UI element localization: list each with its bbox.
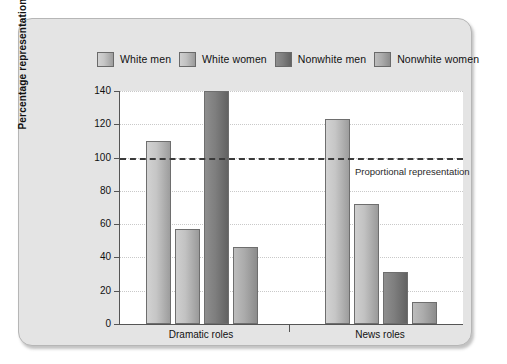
gridline-120	[120, 124, 463, 125]
proportional-representation-label: Proportional representation	[355, 166, 470, 177]
legend-item-white-men: White men	[97, 52, 171, 67]
legend-swatch-white-men	[97, 52, 114, 67]
gridline-20	[120, 291, 463, 292]
plot-area: Proportional representation	[119, 91, 463, 324]
y-tick-label-60: 60	[77, 218, 111, 229]
gridline-80	[120, 191, 463, 192]
bar-nonwhite-men-news-roles	[383, 272, 408, 324]
gridline-40	[120, 257, 463, 258]
bar-white-women-news-roles	[354, 204, 379, 324]
y-tick-label-40: 40	[77, 251, 111, 262]
x-axis-label-news-roles: News roles	[330, 329, 430, 340]
chart-legend: White men White women Nonwhite men Nonwh…	[97, 49, 467, 69]
bar-white-men-news-roles	[325, 119, 350, 324]
legend-label-white-men: White men	[120, 53, 171, 65]
x-axis-label-dramatic-roles: Dramatic roles	[151, 329, 251, 340]
legend-item-white-women: White women	[179, 52, 267, 67]
y-tick-label-0: 0	[77, 318, 111, 329]
y-tick-label-20: 20	[77, 285, 111, 296]
bar-nonwhite-women-news-roles	[412, 302, 437, 324]
legend-label-white-women: White women	[202, 53, 267, 65]
legend-label-nonwhite-women: Nonwhite women	[397, 53, 479, 65]
y-tick-label-100: 100	[77, 152, 111, 163]
proportional-representation-line	[120, 158, 463, 160]
x-axis-group-separator	[289, 325, 290, 332]
bar-nonwhite-women-dramatic-roles	[233, 247, 258, 324]
bar-white-women-dramatic-roles	[175, 229, 200, 324]
legend-swatch-nonwhite-women	[374, 52, 391, 67]
legend-swatch-nonwhite-men	[275, 52, 292, 67]
legend-item-nonwhite-women: Nonwhite women	[374, 52, 479, 67]
y-axis-title: Percentage representation	[17, 0, 28, 139]
figure-panel: White men White women Nonwhite men Nonwh…	[18, 18, 472, 346]
legend-label-nonwhite-men: Nonwhite men	[298, 53, 366, 65]
bar-nonwhite-men-dramatic-roles	[204, 91, 229, 324]
gridline-60	[120, 224, 463, 225]
legend-item-nonwhite-men: Nonwhite men	[275, 52, 366, 67]
y-tick-label-140: 140	[77, 85, 111, 96]
legend-swatch-white-women	[179, 52, 196, 67]
gridline-140	[120, 91, 463, 92]
y-tick-label-80: 80	[77, 185, 111, 196]
y-tick-label-120: 120	[77, 118, 111, 129]
x-axis-line	[118, 324, 463, 325]
bar-white-men-dramatic-roles	[146, 141, 171, 324]
